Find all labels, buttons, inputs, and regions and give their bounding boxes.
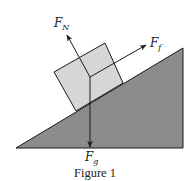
normal-force-label: FN	[53, 16, 70, 32]
friction-force-label: Ff	[149, 36, 163, 52]
figure-caption: Figure 1	[74, 166, 116, 180]
gravity-force-label: Fg	[84, 150, 98, 166]
free-body-diagram: FN Ff Fg Figure 1	[0, 0, 191, 181]
